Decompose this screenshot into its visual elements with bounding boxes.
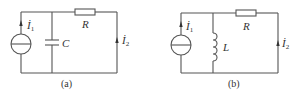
resistor-b xyxy=(236,10,256,16)
resistor-label-b: R xyxy=(242,20,250,32)
inductor-label: L xyxy=(222,41,229,53)
resistor-a xyxy=(75,9,95,15)
arrow-up-icon xyxy=(179,21,182,27)
caption-b: (b) xyxy=(228,78,240,90)
output-current-label-a: İ2 xyxy=(121,34,130,48)
circuit-a: İ1 C R İ2 (a) xyxy=(11,9,130,90)
circuit-b: İ1 L R İ2 (b) xyxy=(171,10,290,90)
capacitor-label: C xyxy=(62,37,70,49)
arrow-up-icon xyxy=(276,40,279,46)
source-current-label-a: İ1 xyxy=(26,19,35,33)
arrow-up-icon xyxy=(19,20,22,26)
output-current-label-b: İ2 xyxy=(281,37,290,51)
resistor-label-a: R xyxy=(81,18,89,30)
caption-a: (a) xyxy=(61,78,72,90)
arrow-up-icon xyxy=(115,37,118,43)
inductor-coil xyxy=(213,33,217,61)
circuit-figure: İ1 C R İ2 (a) İ1 L R İ2 (b) xyxy=(0,0,296,95)
source-current-label-b: İ1 xyxy=(185,20,194,34)
